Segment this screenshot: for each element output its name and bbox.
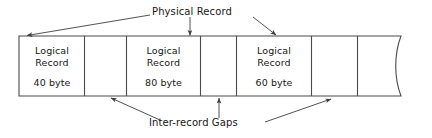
logical-record-cell-2: Logical Record 80 byte — [127, 45, 200, 89]
logical-record-label-line1: Logical — [127, 45, 200, 57]
physical-record-label: Physical Record — [152, 6, 232, 18]
inter-record-gaps-label: Inter-record Gaps — [149, 117, 238, 129]
gap-leader-right — [265, 99, 331, 122]
logical-record-size-3: 60 byte — [237, 77, 311, 89]
tape-record-diagram: Logical Record 40 byte Logical Record 80… — [0, 0, 432, 138]
logical-record-cell-3: Logical Record 60 byte — [237, 45, 311, 89]
physical-record-leader-left — [27, 15, 150, 36]
logical-record-label-line2: Record — [20, 57, 84, 69]
logical-record-label-line2: Record — [127, 57, 200, 69]
logical-record-size-2: 80 byte — [127, 77, 200, 89]
logical-record-label-line1: Logical — [20, 45, 84, 57]
logical-record-size-1: 40 byte — [20, 77, 84, 89]
logical-record-label-line2: Record — [237, 57, 311, 69]
logical-record-label-line1: Logical — [237, 45, 311, 57]
physical-record-leader-right — [253, 17, 276, 35]
logical-record-cell-1: Logical Record 40 byte — [20, 45, 84, 89]
